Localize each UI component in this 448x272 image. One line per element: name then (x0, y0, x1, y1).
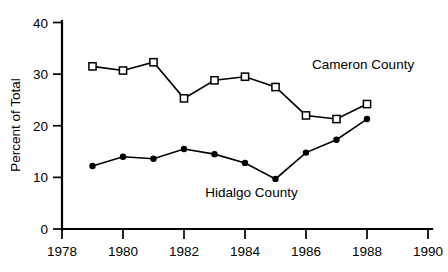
y-axis-group: 010203040 (33, 16, 62, 238)
y-tick-group: 010203040 (33, 16, 62, 238)
x-tick-label: 1984 (230, 244, 261, 259)
x-tick-label: 1988 (352, 244, 382, 259)
data-point-marker (303, 150, 308, 155)
y-tick-label: 20 (33, 119, 48, 134)
y-tick-label: 10 (33, 170, 48, 185)
x-tick-label: 1982 (169, 244, 199, 259)
data-point-marker (150, 59, 157, 66)
series-line (93, 119, 368, 179)
data-point-marker (90, 163, 95, 168)
data-point-marker (120, 154, 125, 159)
data-point-marker (181, 146, 186, 151)
x-tick-label: 1978 (47, 244, 77, 259)
chart-canvas: 010203040 1978198019821984198619881990 P… (0, 0, 448, 272)
x-tick-group: 1978198019821984198619881990 (47, 229, 443, 259)
series-label: Hidalgo County (205, 185, 298, 200)
x-tick-label: 1986 (291, 244, 321, 259)
x-tick-label: 1980 (108, 244, 138, 259)
data-point-marker (302, 112, 309, 119)
data-point-marker (333, 115, 340, 122)
line-chart: 010203040 1978198019821984198619881990 P… (0, 0, 448, 272)
data-point-marker (119, 67, 126, 74)
data-point-marker (334, 137, 339, 142)
series-label: Cameron County (312, 57, 414, 72)
series-2 (90, 116, 370, 181)
data-point-marker (272, 83, 279, 90)
x-tick-label: 1990 (413, 244, 443, 259)
y-tick-label: 30 (33, 67, 48, 82)
data-point-marker (273, 176, 278, 181)
data-point-marker (151, 156, 156, 161)
data-point-marker (241, 73, 248, 80)
y-axis-title: Percent of Total (8, 78, 23, 172)
data-point-marker (363, 100, 370, 107)
data-point-marker (211, 77, 218, 84)
data-point-marker (212, 152, 217, 157)
y-tick-label: 0 (40, 222, 48, 237)
data-point-marker (364, 116, 369, 121)
data-point-marker (242, 160, 247, 165)
series-layer (89, 59, 371, 182)
y-tick-label: 40 (33, 16, 48, 31)
data-point-marker (89, 63, 96, 70)
x-axis-group: 1978198019821984198619881990 (47, 229, 443, 259)
data-point-marker (180, 95, 187, 102)
